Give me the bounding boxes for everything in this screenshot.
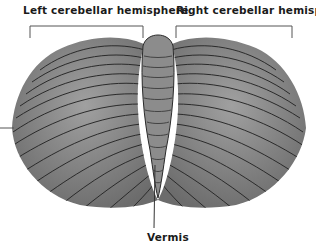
- left-hemisphere-label: Left cerebellar hemisphere: [23, 4, 188, 16]
- left-hemisphere-bracket: [30, 26, 143, 38]
- right-hemisphere-bracket: [176, 26, 292, 38]
- left-hemisphere: [12, 38, 158, 210]
- right-hemisphere-label: Right cerebellar hemisphere: [176, 4, 316, 16]
- cerebellum-illustration: [0, 0, 316, 247]
- vermis-label: Vermis: [147, 231, 189, 243]
- right-hemisphere: [158, 38, 306, 210]
